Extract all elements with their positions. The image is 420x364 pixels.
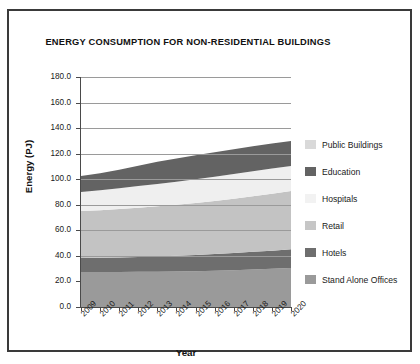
chart-screenshot: ENERGY CONSUMPTION FOR NON-RESIDENTIAL B…: [0, 0, 420, 364]
y-tick-label: 80.0: [35, 200, 71, 209]
y-tick-mark: [76, 281, 80, 282]
y-tick-mark: [76, 77, 80, 78]
y-tick-label: 40.0: [35, 251, 71, 260]
y-tick-mark: [76, 307, 80, 308]
legend-swatch-icon: [305, 248, 316, 257]
grid-line: [81, 230, 291, 231]
stacked-area-series: [81, 77, 291, 307]
y-tick-label: 140.0: [35, 123, 71, 132]
grid-line: [81, 281, 291, 282]
y-axis-tick-labels: 0.020.040.060.080.0100.0120.0140.0160.01…: [29, 11, 71, 364]
legend-item: Stand Alone Offices: [305, 266, 420, 293]
legend-item: Hospitals: [305, 185, 420, 212]
y-axis-title: Energy (PJ): [23, 112, 34, 222]
legend-swatch-icon: [305, 140, 316, 149]
grid-line: [81, 154, 291, 155]
y-tick-label: 100.0: [35, 174, 71, 183]
legend-item-label: Retail: [322, 221, 344, 231]
y-tick-label: 60.0: [35, 225, 71, 234]
plot-area: [81, 77, 291, 307]
legend-item: Public Buildings: [305, 131, 420, 158]
grid-line: [81, 103, 291, 104]
chart-frame: ENERGY CONSUMPTION FOR NON-RESIDENTIAL B…: [7, 9, 412, 352]
y-tick-mark: [76, 128, 80, 129]
legend-item-label: Education: [322, 167, 360, 177]
y-tick-mark: [76, 205, 80, 206]
legend-item-label: Hotels: [322, 248, 346, 258]
legend-item: Hotels: [305, 239, 420, 266]
y-axis-line: [80, 77, 81, 308]
legend-swatch-icon: [305, 167, 316, 176]
y-tick-mark: [76, 154, 80, 155]
legend-item-label: Public Buildings: [322, 140, 383, 150]
grid-line: [81, 179, 291, 180]
legend-swatch-icon: [305, 221, 316, 230]
y-tick-mark: [76, 103, 80, 104]
grid-line: [81, 128, 291, 129]
legend-item: Retail: [305, 212, 420, 239]
y-tick-label: 120.0: [35, 149, 71, 158]
grid-line: [81, 256, 291, 257]
legend-swatch-icon: [305, 194, 316, 203]
grid-line: [81, 77, 291, 78]
y-tick-label: 180.0: [35, 72, 71, 81]
y-tick-label: 20.0: [35, 276, 71, 285]
chart-legend: Public BuildingsEducationHospitalsRetail…: [305, 131, 420, 293]
legend-item-label: Hospitals: [322, 194, 357, 204]
x-axis-title: Year: [81, 347, 291, 358]
x-tick-label: 2020: [289, 299, 308, 318]
legend-swatch-icon: [305, 275, 316, 284]
grid-line: [81, 205, 291, 206]
y-tick-label: 160.0: [35, 98, 71, 107]
legend-item: Education: [305, 158, 420, 185]
legend-item-label: Stand Alone Offices: [322, 275, 397, 285]
y-tick-label: 0.0: [35, 302, 71, 311]
y-tick-mark: [76, 256, 80, 257]
y-tick-mark: [76, 230, 80, 231]
y-tick-mark: [76, 179, 80, 180]
